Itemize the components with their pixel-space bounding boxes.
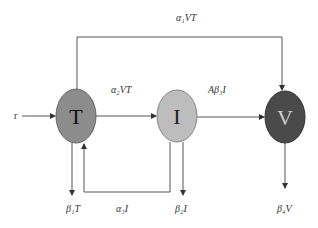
edge-I-to-T-feedback [84,142,170,192]
edge-T-to-V-top [77,37,282,90]
label-A-beta3-I: Aβ₃I [207,84,227,95]
compartment-diagram: r α₁VT α₂VT Aβ₃I β₁T α₃I β₂I β₄V T I V [0,0,318,228]
node-I: I [157,90,197,142]
label-beta4-V: β₄V [276,203,293,214]
node-V-label: V [277,105,293,130]
node-V: V [265,91,305,143]
label-alpha2-VT: α₂VT [111,84,133,95]
label-beta1-T: β₁T [65,203,81,214]
node-I-label: I [173,104,180,129]
node-T: T [56,89,96,143]
label-alpha3-I: α₃I [116,203,129,214]
label-alpha1-VT: α₁VT [176,12,198,23]
label-r: r [14,110,18,121]
label-beta2-I: β₂I [174,203,187,214]
node-T-label: T [69,104,83,129]
